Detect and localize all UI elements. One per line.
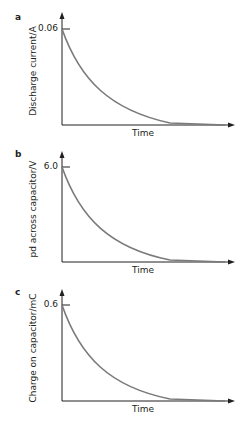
y-axis-arrow-icon [60,12,65,19]
panel-b: b 6.0 pd across capacitor/V Time [0,140,251,280]
x-axis-arrow-icon [228,399,235,404]
decay-curve [62,29,225,125]
plot-area [0,0,251,140]
y-axis-arrow-icon [60,151,65,158]
x-axis-arrow-icon [228,123,235,128]
plot-area [0,140,251,280]
y-axis-arrow-icon [60,289,65,296]
plot-area [0,280,251,427]
decay-curve [62,167,225,262]
decay-curve [62,305,225,401]
panel-a: a 0.06 Discharge current/A Time [0,0,251,140]
panel-c: c 0.6 Charge on capacitor/mC Time [0,280,251,427]
x-axis-arrow-icon [228,260,235,265]
